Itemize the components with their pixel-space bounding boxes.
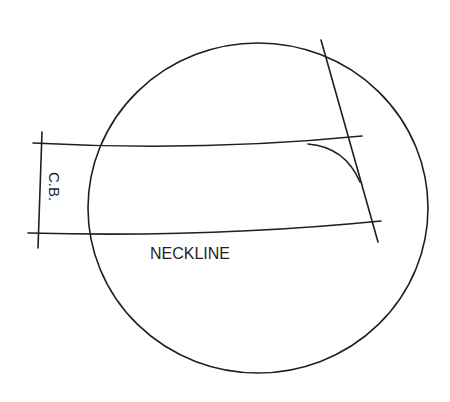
center-back-line: [38, 132, 42, 248]
center-back-label: C.B.: [46, 172, 63, 201]
circle-outline: [88, 43, 428, 373]
neckline-line: [28, 221, 381, 234]
shoulder-diagonal-line: [321, 40, 378, 242]
neckline-label: NECKLINE: [150, 245, 230, 262]
neckline-diagram: C.B. NECKLINE: [0, 0, 450, 402]
